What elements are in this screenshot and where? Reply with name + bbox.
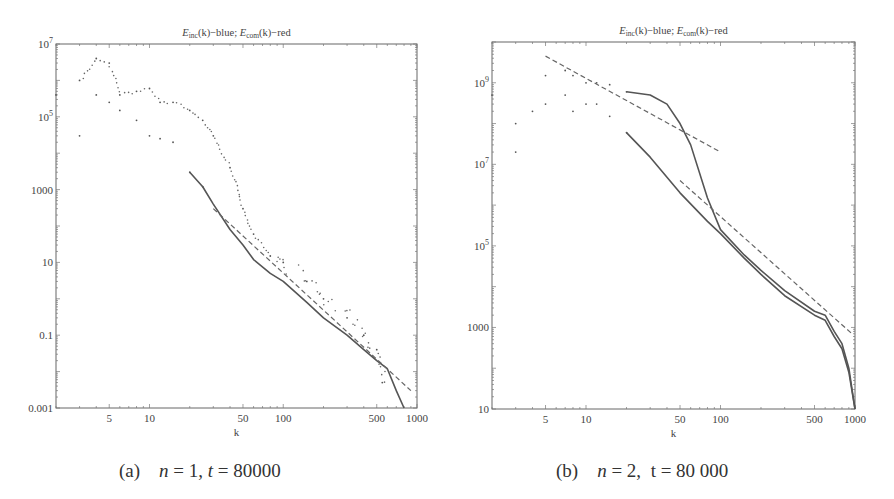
- loglog-plot-a: Einc(k)−blue; Ecom(k)−red510501005001000…: [0, 0, 447, 499]
- y-tick-label: 109: [474, 75, 489, 89]
- caption-n-var: n: [159, 460, 169, 481]
- y-tick-label: 107: [38, 36, 53, 50]
- series-power-law-fit-lower-dashed: [680, 181, 852, 334]
- x-tick-label: 100: [712, 413, 729, 425]
- plot-frame: [492, 42, 855, 409]
- figure-panel-a: Einc(k)−blue; Ecom(k)−red510501005001000…: [0, 0, 447, 499]
- y-tick-label: 0.001: [28, 402, 53, 414]
- x-tick-label: 100: [275, 412, 292, 424]
- caption-t-value: = 80000: [218, 460, 281, 481]
- series-e-com-k-red: [79, 58, 386, 384]
- x-tick-label: 5: [106, 412, 112, 424]
- x-tick-label: 500: [368, 412, 385, 424]
- y-tick-label: 10: [478, 403, 490, 415]
- x-tick-label: 1000: [844, 413, 867, 425]
- x-tick-label: 500: [806, 413, 823, 425]
- x-tick-label: 1000: [406, 412, 429, 424]
- y-tick-label: 1000: [31, 184, 54, 196]
- caption-label: (b): [556, 460, 578, 481]
- x-axis-label: k: [671, 427, 677, 439]
- caption-t-var: t: [651, 460, 656, 481]
- x-tick-label: 10: [144, 412, 156, 424]
- y-tick-label: 105: [474, 238, 489, 252]
- loglog-plot-b: Einc(k)−blue; Ecom(k)−red510501005001000…: [447, 0, 894, 499]
- series-power-law-fit-upper-dashed: [546, 56, 721, 152]
- caption-n-value: = 1,: [173, 460, 203, 481]
- x-axis-label: k: [234, 426, 240, 438]
- plot-title: Einc(k)−blue; Ecom(k)−red: [618, 25, 728, 38]
- y-tick-label: 10: [42, 256, 54, 268]
- caption-n-var: n: [597, 460, 607, 481]
- x-tick-label: 50: [237, 412, 249, 424]
- minor-ticks: [56, 44, 417, 408]
- caption-b: (b) n = 2, t = 80 000: [556, 460, 728, 482]
- caption-a: (a) n = 1, t = 80000: [119, 460, 281, 482]
- x-tick-label: 5: [543, 413, 549, 425]
- plot-frame: [56, 44, 417, 408]
- series-power-law-fit-dashed: [213, 209, 411, 391]
- minor-ticks: [492, 42, 855, 409]
- y-tick-label: 1000: [467, 321, 490, 333]
- x-tick-label: 10: [581, 413, 593, 425]
- caption-t-value: = 80 000: [661, 460, 729, 481]
- caption-n-value: = 2,: [611, 460, 641, 481]
- x-tick-label: 50: [675, 413, 687, 425]
- plot-title: Einc(k)−blue; Ecom(k)−red: [181, 27, 291, 40]
- series-e-inc-k-blue: [55, 94, 404, 408]
- series-e-com-k-red: [515, 70, 855, 409]
- y-tick-label: 105: [38, 109, 53, 123]
- caption-t-var: t: [208, 460, 213, 481]
- y-tick-label: 0.1: [39, 329, 53, 341]
- figure-panel-b: Einc(k)−blue; Ecom(k)−red510501005001000…: [447, 0, 894, 499]
- series-e-inc-k-blue: [491, 94, 855, 409]
- caption-label: (a): [119, 460, 140, 481]
- y-tick-label: 107: [474, 156, 489, 170]
